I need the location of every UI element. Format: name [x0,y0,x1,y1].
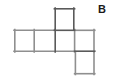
net-cell-row-2 [34,30,54,53]
net-cell-top [54,8,74,30]
net-cell-row-3 [54,30,74,53]
net-cell-bottom [75,52,95,75]
figure-label-b: B [98,4,106,15]
net-cell-row-4 [75,30,95,53]
net-cell-row-1 [14,30,34,53]
cube-net-figure: B [0,0,115,79]
